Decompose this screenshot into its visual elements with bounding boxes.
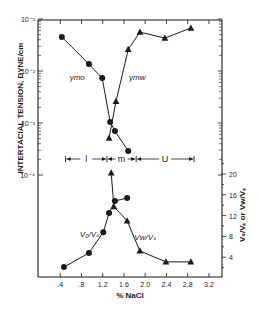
region-label: l (85, 154, 87, 164)
x-tick-label: 2.4 (162, 281, 172, 288)
gamma-mo-circle-marker (86, 61, 92, 67)
arrow-right-icon (131, 157, 135, 161)
right-y-tick-label: 4 (229, 254, 233, 261)
x-tick-label: 1.6 (119, 281, 129, 288)
right-y-tick-label: 8 (229, 233, 233, 240)
x-tick-label: 2.0 (140, 281, 150, 288)
right-y-tick-label: 12 (229, 213, 237, 220)
arrow-right-icon (102, 157, 106, 161)
interfacial-tension-chart: .4.81.21.62.02.42.83.210⁻¹10⁻²10⁻³10⁻⁴48… (0, 0, 259, 311)
series-annotation: Vw/Vₛ (134, 233, 157, 242)
gamma-mw-triangle-marker (106, 135, 113, 141)
gamma-mo-circle-marker (112, 128, 118, 134)
x-tick-label: .4 (57, 281, 63, 288)
gamma-mw-line (109, 28, 191, 138)
x-tick-label: 1.2 (98, 281, 108, 288)
vo-vs-circle-marker (106, 210, 112, 216)
vw-vs-triangle-marker (136, 247, 143, 253)
right-y-tick-label: 16 (229, 192, 237, 199)
arrow-right-icon (189, 157, 193, 161)
series-annotation: V₀/Vₛ (80, 230, 100, 239)
gamma-mw-triangle-marker (187, 24, 194, 30)
y-axis-label-right: V₀/Vₛ or Vw/Vₛ (238, 188, 247, 242)
region-label: U (162, 154, 169, 164)
arrow-left-icon (137, 157, 141, 161)
vw-vs-triangle-marker (110, 203, 117, 209)
gamma-mo-circle-marker (99, 75, 105, 81)
x-tick-label: .8 (79, 281, 85, 288)
gamma-mw-triangle-marker (136, 28, 143, 34)
gamma-mw-triangle-marker (113, 98, 120, 104)
x-tick-label: 3.2 (204, 281, 214, 288)
arrow-left-icon (108, 157, 112, 161)
region-annotations: lmU (66, 154, 195, 164)
series-annotation: γmw (129, 73, 147, 82)
vo-vs-circle-marker (124, 195, 130, 201)
vo-vs-circle-marker (100, 229, 106, 235)
region-label: m (118, 154, 126, 164)
vo-vs-circle-marker (61, 264, 67, 270)
y-tick-label: 10⁻¹ (21, 16, 36, 23)
vw-vs-triangle-marker (108, 169, 115, 175)
arrow-left-icon (67, 157, 71, 161)
chart-labels: % NaCl INTERTACIAL TENSION, DYNE/cm V₀/V… (16, 43, 247, 300)
vo-vs-circle-marker (86, 250, 92, 256)
vw-vs-line (111, 173, 191, 262)
plot-frame (38, 20, 222, 277)
gamma-mo-circle-marker (59, 34, 65, 40)
y-axis-label-left: INTERTACIAL TENSION, DYNE/cm (16, 43, 25, 174)
gamma-mo-circle-marker (125, 148, 131, 154)
right-y-tick-label: 20 (229, 171, 237, 178)
series-annotation: γmo (70, 73, 86, 82)
x-axis-label: % NaCl (116, 291, 144, 300)
x-tick-label: 2.8 (183, 281, 193, 288)
